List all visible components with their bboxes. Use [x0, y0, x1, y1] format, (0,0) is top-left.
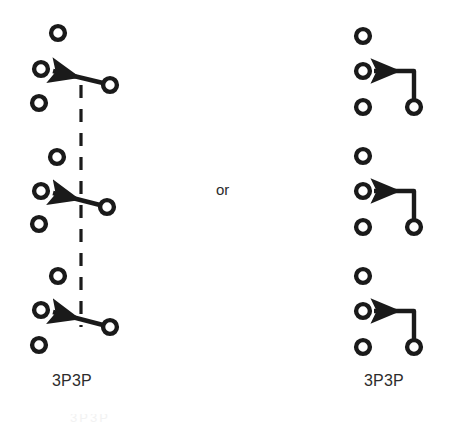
terminal-bottom[interactable]	[32, 217, 46, 231]
terminal-bottom[interactable]	[356, 340, 370, 354]
diagram-canvas: 3P3P 3P3P or 3P3P	[0, 0, 451, 424]
terminal-common[interactable]	[34, 303, 48, 317]
terminal-bottom[interactable]	[356, 100, 370, 114]
right-pole-2	[356, 149, 421, 234]
clipped-caption-text: 3P3P	[70, 414, 110, 424]
right-diagram-label: 3P3P	[364, 372, 404, 390]
terminal-top[interactable]	[356, 29, 370, 43]
left-pole-3	[32, 269, 117, 352]
right-angle-connector[interactable]	[374, 71, 414, 99]
left-pole-1	[32, 26, 117, 110]
clipped-caption-region: 3P3P	[0, 414, 451, 424]
switch-blade[interactable]	[53, 193, 100, 205]
or-connector-label: or	[216, 181, 229, 198]
terminal-bottom[interactable]	[356, 220, 370, 234]
terminal-bottom[interactable]	[32, 338, 46, 352]
left-pole-2	[32, 150, 114, 231]
terminal-common[interactable]	[34, 62, 48, 76]
terminal-common[interactable]	[356, 184, 370, 198]
right-pole-3	[356, 269, 421, 354]
terminal-top[interactable]	[50, 150, 64, 164]
right-angle-connector[interactable]	[374, 191, 414, 219]
terminal-top[interactable]	[356, 269, 370, 283]
terminal-blade-pivot[interactable]	[100, 200, 114, 214]
terminal-top[interactable]	[51, 26, 65, 40]
terminal-bottom[interactable]	[32, 96, 46, 110]
switch-blade[interactable]	[53, 71, 103, 83]
terminal-common[interactable]	[356, 304, 370, 318]
terminal-blade-pivot[interactable]	[103, 78, 117, 92]
terminal-top[interactable]	[51, 269, 65, 283]
left-diagram-label: 3P3P	[52, 372, 92, 390]
left-diagram-group	[32, 26, 117, 352]
terminal-blade-pivot[interactable]	[407, 220, 421, 234]
right-diagram-group	[356, 29, 421, 354]
terminal-common[interactable]	[356, 64, 370, 78]
terminal-blade-pivot[interactable]	[407, 340, 421, 354]
terminal-blade-pivot[interactable]	[407, 100, 421, 114]
terminal-common[interactable]	[34, 184, 48, 198]
terminal-blade-pivot[interactable]	[103, 320, 117, 334]
right-pole-1	[356, 29, 421, 114]
schematic-svg	[0, 0, 451, 424]
terminal-top[interactable]	[356, 149, 370, 163]
right-angle-connector[interactable]	[374, 311, 414, 339]
switch-blade[interactable]	[53, 312, 103, 325]
